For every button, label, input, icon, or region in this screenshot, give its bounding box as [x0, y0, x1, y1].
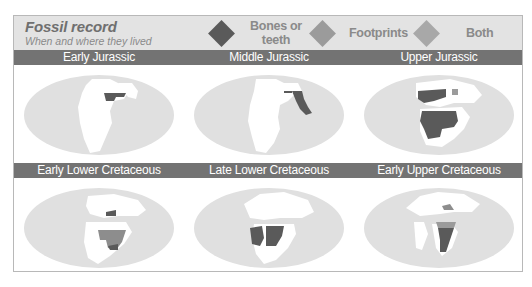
bones-diamond-icon: [208, 20, 235, 47]
legend-bones-label: Bones or: [247, 19, 305, 33]
map-early-upper-cretaceous: [354, 178, 524, 274]
map-early-jurassic: [14, 65, 184, 161]
legend-footprints-label: Footprints: [349, 26, 408, 40]
header-band: Fossil record When and where they lived …: [14, 16, 522, 50]
map-early-lower-cretaceous: [14, 178, 184, 274]
legend-footprints: Footprints: [313, 16, 408, 50]
both-diamond-icon: [413, 20, 440, 47]
legend-both: Both: [417, 16, 493, 50]
fossil-record-graphic: Fossil record When and where they lived …: [13, 15, 523, 272]
legend-both-label: Both: [466, 26, 493, 40]
subtitle: When and where they lived: [25, 35, 152, 47]
panel-title: Upper Jurassic: [354, 50, 524, 65]
legend-bones: Bones or teeth: [212, 16, 305, 50]
footprints-region: [452, 89, 458, 95]
footprints-diamond-icon: [309, 20, 336, 47]
panel-title: Early Upper Cretaceous: [354, 163, 524, 178]
title: Fossil record: [25, 18, 117, 35]
panel-middle-jurassic: Middle Jurassic: [184, 50, 354, 161]
panel-title: Early Jurassic: [14, 50, 184, 65]
footprints-region-top: [436, 222, 456, 228]
panel-title: Middle Jurassic: [184, 50, 354, 65]
panel-early-upper-cretaceous: Early Upper Cretaceous: [354, 163, 524, 274]
legend-bones-label-2: teeth: [247, 33, 305, 47]
panel-late-lower-cretaceous: Late Lower Cretaceous: [184, 163, 354, 274]
map-upper-jurassic: [354, 65, 524, 161]
panel-upper-jurassic: Upper Jurassic: [354, 50, 524, 161]
map-middle-jurassic: [184, 65, 354, 161]
panel-title: Early Lower Cretaceous: [14, 163, 184, 178]
panel-title: Late Lower Cretaceous: [184, 163, 354, 178]
panel-early-jurassic: Early Jurassic: [14, 50, 184, 161]
map-late-lower-cretaceous: [184, 178, 354, 274]
panel-early-lower-cretaceous: Early Lower Cretaceous: [14, 163, 184, 274]
